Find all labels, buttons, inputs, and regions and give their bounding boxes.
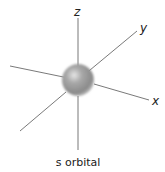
z-axis-label: z [73, 5, 81, 19]
s-orbital-diagram: z y x s orbital [0, 0, 165, 172]
s-orbital-sphere [62, 64, 94, 96]
y-axis-near [20, 92, 66, 131]
y-axis-label: y [139, 21, 148, 35]
caption: s orbital [56, 156, 101, 169]
diagram-canvas: z y x s orbital [0, 0, 165, 172]
x-axis-near [94, 84, 149, 100]
x-axis-label: x [151, 94, 160, 108]
